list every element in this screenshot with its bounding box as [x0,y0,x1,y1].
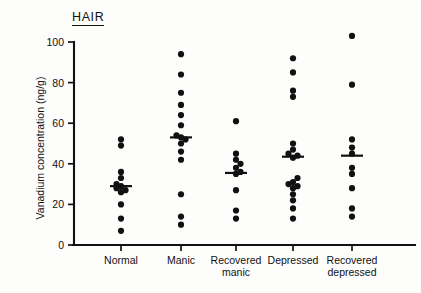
data-point [290,94,296,100]
y-tick-label: 40 [52,158,64,170]
data-series-group [282,55,304,222]
data-point [290,197,296,203]
data-point [349,144,355,150]
data-point [178,213,184,219]
data-point [290,216,296,222]
data-point [178,112,184,118]
data-point [290,140,296,146]
chart-figure: HAIR Vanadium concentration (ng/g) 02040… [0,0,421,293]
data-series-layer [110,33,363,234]
data-point [178,222,184,228]
data-point [178,191,184,197]
data-point [290,55,296,61]
x-axis-category-label: Recovered [211,254,262,266]
data-point [118,175,124,181]
scatter-plot-canvas: 020406080100 NormalManicRecoveredmanicDe… [0,0,421,293]
data-point [178,102,184,108]
data-point [118,142,124,148]
data-point [290,146,296,152]
y-tick-label: 0 [58,239,64,251]
data-point [349,136,355,142]
data-point [349,82,355,88]
y-tick-label: 100 [46,36,64,48]
data-point [290,205,296,211]
data-point [178,122,184,128]
x-axis-category-label: manic [222,266,250,278]
data-point [118,169,124,175]
x-axis-category-labels: NormalManicRecoveredmanicDepressedRecove… [104,254,377,278]
data-point [349,213,355,219]
data-point [349,165,355,171]
x-axis-category-label: Manic [167,254,195,266]
y-tick-label: 60 [52,117,64,129]
data-point [233,187,239,193]
data-series-group [225,118,247,222]
data-series-group [110,136,132,234]
data-point [290,191,296,197]
data-point [233,151,239,157]
data-point [349,33,355,39]
data-point [294,175,300,181]
y-tick-label: 20 [52,198,64,210]
data-point [233,207,239,213]
x-axis-category-label: Normal [104,254,138,266]
data-point [118,201,124,207]
data-point [118,228,124,234]
data-point [233,157,239,163]
data-point [118,216,124,222]
data-point [178,71,184,77]
y-axis-ticks: 020406080100 [46,36,74,251]
data-point [349,171,355,177]
data-point [349,205,355,211]
x-axis-category-label: Depressed [268,254,319,266]
data-series-group [170,51,192,228]
x-axis-category-label: Recovered [327,254,378,266]
data-point [178,157,184,163]
data-point [233,118,239,124]
data-point [233,216,239,222]
data-point [290,88,296,94]
data-point [118,136,124,142]
data-point [178,90,184,96]
data-point [290,69,296,75]
data-point [178,51,184,57]
data-point [349,185,355,191]
y-tick-label: 80 [52,77,64,89]
data-series-group [341,33,363,220]
x-axis-category-label: depressed [327,266,376,278]
data-point [178,149,184,155]
